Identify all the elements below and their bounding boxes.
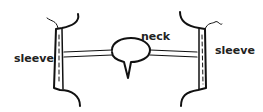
neck-label: neck [141,31,170,42]
neck-outline [112,38,150,78]
right-sleeve-label: sleeve [215,45,255,56]
left-cord [64,50,112,52]
left-sleeve-label: sleeve [14,53,54,64]
garment-diagram: sleeve neck sleeve [0,0,263,112]
right-cord [150,50,197,52]
